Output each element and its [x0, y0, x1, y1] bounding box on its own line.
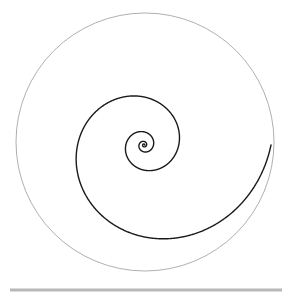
spiral-plot: Logarithmic spiral inscribed in a boundi…: [0, 0, 289, 299]
figure-container: Logarithmic spiral inscribed in a boundi…: [0, 0, 289, 299]
plot-background: [0, 0, 289, 299]
